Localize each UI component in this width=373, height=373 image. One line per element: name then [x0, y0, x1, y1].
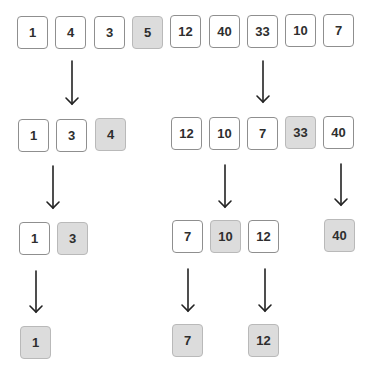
arrow-down-icon [182, 269, 194, 311]
arrow-down-icon [66, 61, 78, 104]
arrow-down-icon [335, 164, 347, 205]
arrow-down-icon [219, 165, 231, 207]
arrow-down-icon [257, 61, 269, 102]
arrows-layer [0, 0, 373, 373]
arrow-down-icon [30, 271, 42, 312]
arrow-down-icon [47, 166, 59, 208]
arrow-down-icon [259, 269, 271, 311]
